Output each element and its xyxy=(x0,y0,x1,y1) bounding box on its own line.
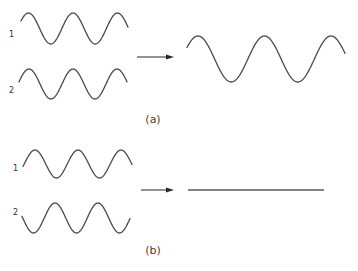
panel-b-wave-2 xyxy=(22,203,130,233)
panel-a-wave-2-label: 2 xyxy=(9,87,14,95)
panel-a-wave-1 xyxy=(21,13,128,44)
interference-diagram xyxy=(0,0,358,271)
panel-a-caption: (a) xyxy=(145,114,160,125)
panel-b-caption: (b) xyxy=(145,245,161,256)
panel-b xyxy=(22,150,324,233)
panel-a-arrow-icon xyxy=(137,55,174,60)
panel-a-wave-1-label: 1 xyxy=(9,31,14,39)
panel-b-wave-1-label: 1 xyxy=(13,165,18,173)
panel-b-arrow-icon xyxy=(141,188,174,193)
panel-b-wave-1 xyxy=(23,150,132,178)
panel-a xyxy=(19,13,345,99)
panel-a-result-wave xyxy=(187,36,345,82)
panel-b-wave-2-label: 2 xyxy=(13,209,18,217)
panel-a-wave-2 xyxy=(19,69,127,99)
